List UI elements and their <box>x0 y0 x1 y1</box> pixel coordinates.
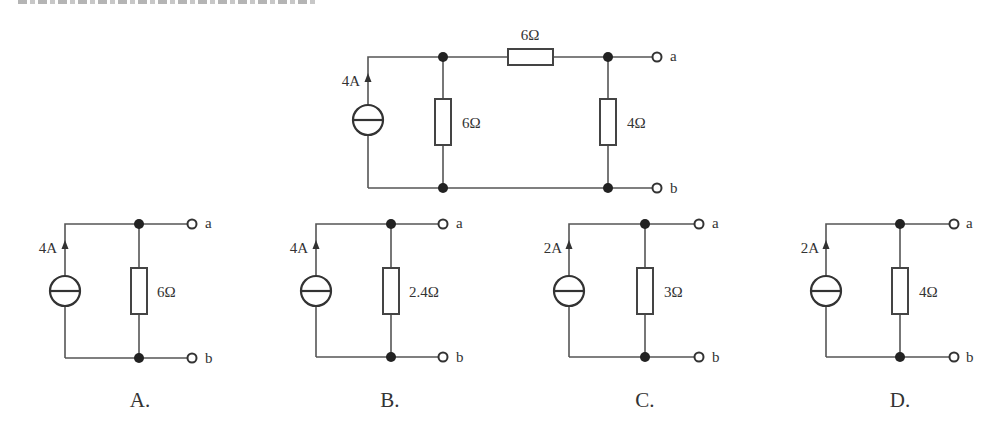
terminal-b-label: b <box>670 180 678 196</box>
left-resistor-label: 6Ω <box>462 115 481 131</box>
option-c-terminal-a: a <box>712 215 719 231</box>
option-b-resistor-label: 2.4Ω <box>409 284 439 300</box>
option-a-resistor <box>131 268 147 314</box>
terminal-b-icon <box>188 354 197 363</box>
option-d-label[interactable]: D. <box>890 388 910 412</box>
terminal-b-icon <box>439 353 448 362</box>
current-arrow-icon <box>62 240 69 249</box>
top-resistor <box>508 49 553 65</box>
terminal-a-label: a <box>670 48 677 64</box>
source-current-label: 4A <box>342 73 361 89</box>
option-b-label[interactable]: B. <box>380 388 399 412</box>
terminal-a-icon <box>439 220 448 229</box>
main-circuit: 6Ω 6Ω 4Ω 4A a b <box>342 27 678 196</box>
terminal-a-icon <box>653 53 662 62</box>
junction-dot <box>134 353 144 363</box>
terminal-a-icon <box>188 220 197 229</box>
terminal-b-icon <box>653 184 662 193</box>
option-a-current-label: 4A <box>39 240 58 256</box>
circuit-diagram: 6Ω 6Ω 4Ω 4A a b 4A <box>0 0 1002 427</box>
junction-dot <box>895 352 905 362</box>
terminal-a-icon <box>950 220 959 229</box>
option-a-terminal-b: b <box>205 350 213 366</box>
option-d-resistor-label: 4Ω <box>919 284 938 300</box>
option-b-current-label: 4A <box>290 240 309 256</box>
current-arrow-icon <box>823 240 830 249</box>
option-d-terminal-a: a <box>966 215 973 231</box>
current-arrow-icon <box>313 240 320 249</box>
option-d-current-label: 2A <box>801 240 820 256</box>
top-left-wire <box>368 57 608 105</box>
junction-dot <box>603 183 613 193</box>
option-a-terminal-a: a <box>205 215 212 231</box>
option-a-label[interactable]: A. <box>130 388 150 412</box>
option-d-terminal-b: b <box>966 349 974 365</box>
option-b-terminal-a: a <box>456 215 463 231</box>
junction-dot <box>386 219 396 229</box>
junction-dot <box>895 219 905 229</box>
option-c-resistor-label: 3Ω <box>664 284 683 300</box>
left-resistor <box>435 99 451 145</box>
right-resistor <box>600 99 616 145</box>
junction-dot <box>438 183 448 193</box>
top-resistor-label: 6Ω <box>521 27 540 43</box>
option-d-resistor <box>892 268 908 314</box>
terminal-b-icon <box>695 353 704 362</box>
junction-dot <box>386 352 396 362</box>
terminal-a-icon <box>695 220 704 229</box>
option-b-terminal-b: b <box>456 349 464 365</box>
option-c-current-label: 2A <box>544 240 563 256</box>
junction-dot <box>640 352 650 362</box>
option-b-resistor <box>383 268 399 314</box>
current-arrow-icon <box>365 73 372 82</box>
junction-dot <box>438 52 448 62</box>
junction-dot <box>134 219 144 229</box>
option-a-resistor-label: 6Ω <box>157 284 176 300</box>
terminal-b-icon <box>950 353 959 362</box>
option-c-resistor <box>637 268 653 314</box>
right-resistor-label: 4Ω <box>627 115 646 131</box>
option-c-terminal-b: b <box>712 349 720 365</box>
junction-dot <box>640 219 650 229</box>
current-arrow-icon <box>566 240 573 249</box>
option-c-label[interactable]: C. <box>635 388 654 412</box>
junction-dot <box>603 52 613 62</box>
